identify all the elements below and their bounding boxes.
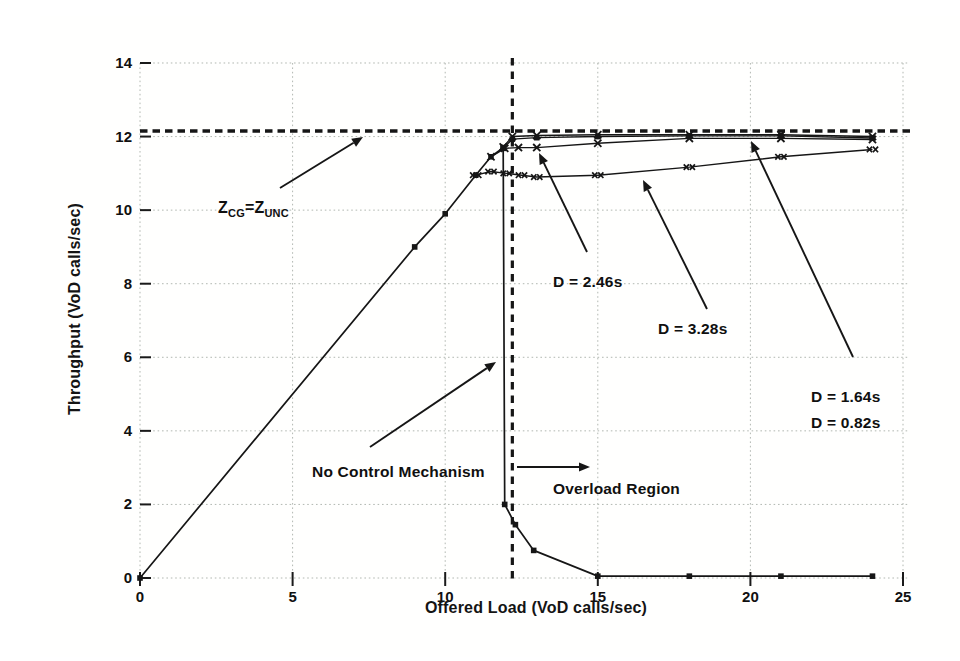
annotation-z-equality-arrow-line — [280, 143, 354, 188]
series-line-d-3-28s — [476, 149, 873, 177]
y-tick-label-8: 8 — [124, 275, 132, 292]
annotation-no-control-arrow-line — [370, 368, 487, 447]
annotation-overload-region-label: Overload Region — [553, 480, 680, 497]
marker — [687, 573, 693, 579]
y-tick-label-6: 6 — [124, 348, 132, 365]
throughput-chart-figure: Throughput (VoD calls/sec) 0246810121405… — [40, 16, 960, 657]
y-tick-label-10: 10 — [115, 201, 132, 218]
marker — [534, 135, 540, 141]
annotation-z-equality-arrow-head — [351, 137, 363, 147]
marker — [137, 575, 143, 581]
y-tick-label-14: 14 — [115, 54, 132, 71]
annotation-d-1-64-0-82-label: D = 1.64sD = 0.82s — [811, 388, 880, 431]
marker — [502, 502, 508, 508]
annotation-d-1-64-0-82-arrow-line — [756, 151, 853, 357]
annotation-no-control-label: No Control Mechanism — [312, 463, 485, 480]
annotation-d-3-28-arrow-line — [648, 190, 707, 309]
marker — [595, 573, 601, 579]
annotation-d-2-46-label: D = 2.46s — [553, 273, 622, 290]
annotation-d-3-28-label: D = 3.28s — [658, 320, 727, 337]
x-tick-label-5: 5 — [288, 588, 296, 605]
y-tick-label-2: 2 — [124, 495, 132, 512]
marker — [531, 548, 537, 554]
x-tick-label-20: 20 — [742, 588, 759, 605]
marker — [412, 244, 418, 250]
marker — [870, 573, 876, 579]
annotation-z-equality-label: ZCG=ZUNC — [218, 199, 289, 219]
x-tick-label-0: 0 — [136, 588, 144, 605]
marker — [595, 134, 601, 140]
chart-canvas: 024681012140510152025ZCG=ZUNCD = 2.46sD … — [40, 16, 960, 657]
x-tick-label-25: 25 — [895, 588, 912, 605]
y-tick-label-4: 4 — [124, 422, 133, 439]
marker — [778, 573, 784, 579]
x-axis-title: Offered Load (VoD calls/sec) — [425, 599, 647, 617]
annotation-overload-region-arrow-head — [579, 462, 590, 471]
y-tick-label-12: 12 — [115, 128, 132, 145]
annotation-no-control-arrow-head — [484, 362, 496, 372]
y-tick-label-0: 0 — [124, 569, 132, 586]
marker — [513, 522, 519, 528]
marker — [510, 136, 516, 142]
marker — [442, 211, 448, 217]
